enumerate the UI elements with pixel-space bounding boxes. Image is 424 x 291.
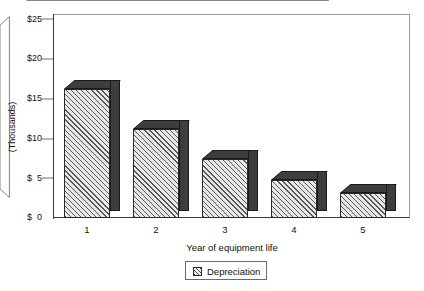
bar-side-face bbox=[317, 171, 327, 211]
legend: Depreciation bbox=[185, 261, 267, 280]
y-axis-title: (Thousands) bbox=[7, 82, 17, 172]
hatched-square-icon bbox=[193, 267, 202, 276]
bar-front-face bbox=[133, 129, 179, 218]
bar-front-face bbox=[64, 89, 110, 218]
bar-chart: $25 $20 $15 $10 $ 5 $ 0 bbox=[0, 0, 424, 291]
bar-front-face bbox=[271, 180, 317, 218]
x-tick-label: 1 bbox=[72, 224, 102, 235]
bar-year-1 bbox=[64, 80, 120, 218]
bar-year-5 bbox=[340, 184, 396, 218]
x-axis-title: Year of equipment life bbox=[137, 242, 327, 253]
x-tick-label: 3 bbox=[210, 224, 240, 235]
bar-year-2 bbox=[133, 120, 189, 218]
bar-side-face bbox=[248, 150, 258, 211]
bar-front-face bbox=[202, 159, 248, 218]
bar-side-face bbox=[386, 184, 396, 211]
x-tick-label: 5 bbox=[348, 224, 378, 235]
bar-side-face bbox=[110, 80, 120, 211]
legend-label: Depreciation bbox=[207, 266, 260, 277]
bar-year-3 bbox=[202, 150, 258, 218]
x-tick-label: 4 bbox=[279, 224, 309, 235]
bar-front-face bbox=[340, 193, 386, 218]
x-tick-label: 2 bbox=[141, 224, 171, 235]
bar-side-face bbox=[179, 120, 189, 211]
bar-year-4 bbox=[271, 171, 327, 218]
